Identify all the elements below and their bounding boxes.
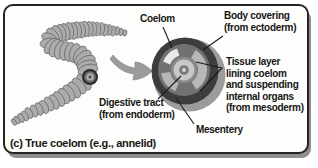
label-body-covering: Body covering (from ectoderm) — [224, 10, 296, 33]
digestive-lumen — [182, 68, 186, 72]
worm-cut-end-dot — [88, 75, 91, 78]
figure: Coelom Body covering (from ectoderm) Tis… — [0, 0, 318, 168]
label-digestive-tract: Digestive tract (from endoderm) — [99, 97, 175, 120]
label-coelom: Coelom — [140, 13, 175, 25]
figure-caption: (c) True coelom (e.g., annelid) — [10, 137, 156, 149]
curved-arrow-icon — [110, 55, 152, 80]
label-mesentery: Mesentery — [196, 124, 243, 136]
label-tissue-layer: Tissue layer lining coelom and suspendin… — [226, 56, 304, 114]
